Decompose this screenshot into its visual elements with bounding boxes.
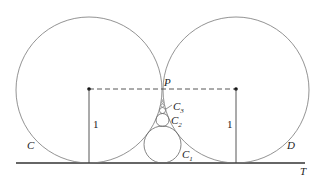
label-t: T <box>300 166 306 177</box>
circle-c4 <box>161 104 164 107</box>
label-c: C <box>27 140 34 151</box>
c3-pointer <box>166 105 172 109</box>
label-d: D <box>287 140 295 151</box>
circle-c1 <box>144 126 181 163</box>
diagram-svg <box>0 0 318 180</box>
label-radius-c: 1 <box>93 119 99 130</box>
label-p: P <box>164 77 171 88</box>
label-radius-d: 1 <box>227 119 233 130</box>
diagram-canvas: C D P T C3 C2 C1 1 1 <box>0 0 318 180</box>
circle-c6 <box>162 100 163 101</box>
circle-c3 <box>160 108 166 114</box>
label-c1: C1 <box>182 149 193 163</box>
circle-c5 <box>162 101 164 103</box>
label-c2: C2 <box>171 115 182 129</box>
circle-c2 <box>156 114 169 127</box>
